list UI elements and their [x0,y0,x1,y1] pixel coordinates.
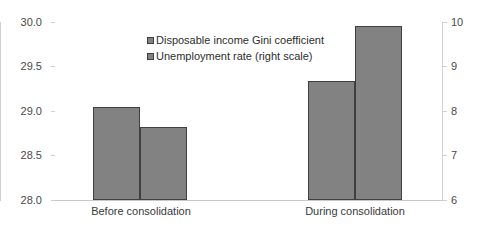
legend-item-gini: Disposable income Gini coefficient [147,33,324,47]
right-axis-tick [443,111,447,112]
left-axis-line [0,22,1,201]
right-axis-tick [443,200,447,201]
right-axis-label-8: 8 [451,106,457,117]
left-axis-label-29: 29.0 [21,106,42,117]
x-axis-label-before-consolidation: Before consolidation [81,205,201,218]
right-axis-tick [443,66,447,67]
legend: Disposable income Gini coefficient Unemp… [147,33,324,65]
legend-item-unemployment: Unemployment rate (right scale) [147,49,324,63]
left-axis-tick [51,111,55,112]
right-axis-label-7: 7 [451,150,457,161]
left-axis-label-28-5: 28.5 [21,150,42,161]
left-axis-label-28: 28.0 [21,195,42,206]
x-axis-label-during-consolidation: During consolidation [295,205,415,218]
right-axis-label-6: 6 [451,195,457,206]
left-axis-label-29-5: 29.5 [21,61,42,72]
legend-label-unemployment: Unemployment rate (right scale) [156,50,313,62]
legend-label-gini: Disposable income Gini coefficient [156,34,324,46]
legend-swatch-icon [147,37,154,44]
x-axis-line [55,200,444,201]
bar-gini-before-consolidation [93,107,140,200]
left-axis-tick [51,200,55,201]
bar-unemployment-during-consolidation [355,26,402,200]
bar-chart: 30.0 29.5 29.0 28.5 28.0 10 9 8 7 6 Befo… [0,0,496,230]
right-axis-label-10: 10 [451,17,463,28]
right-axis-tick [443,155,447,156]
bar-unemployment-before-consolidation [140,127,187,200]
legend-swatch-icon [147,53,154,60]
left-axis-label-30: 30.0 [21,17,42,28]
left-axis-tick [51,66,55,67]
left-axis-tick [51,22,55,23]
bar-gini-during-consolidation [308,81,355,200]
left-axis-tick [51,155,55,156]
right-axis-tick [443,22,447,23]
right-axis-label-9: 9 [451,61,457,72]
